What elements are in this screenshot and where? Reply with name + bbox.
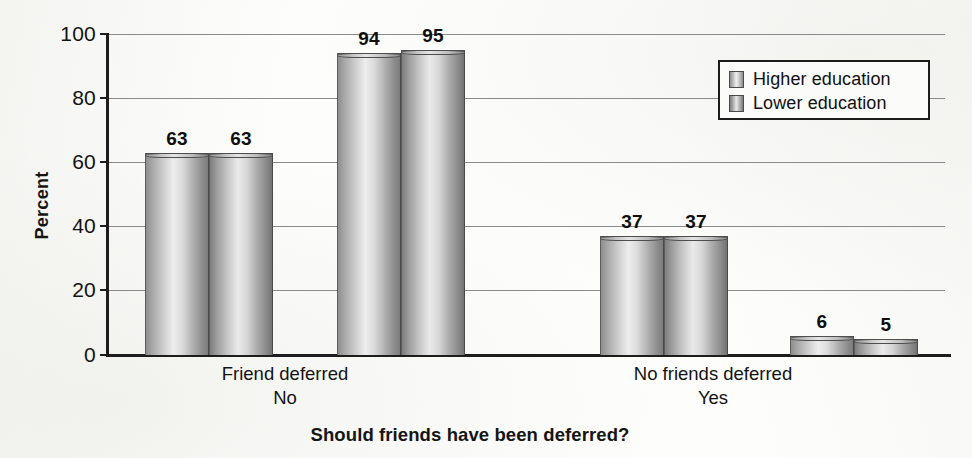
bar-value-group1-lower: 63: [209, 128, 273, 150]
bar-group3-lower-education[interactable]: [664, 236, 728, 355]
bar-top-cap: [854, 339, 918, 344]
bar-value-group4-lower: 5: [854, 314, 918, 336]
legend-label-lower-education: Lower education: [753, 93, 887, 114]
higher-education-swatch-icon: [729, 71, 744, 88]
bar-group2-lower-education[interactable]: [401, 50, 465, 355]
bar-group2-higher-education[interactable]: [337, 53, 401, 355]
lower-education-swatch-icon: [729, 95, 744, 112]
bar-group1-higher-education[interactable]: [145, 153, 209, 355]
legend-item-lower-education[interactable]: Lower education: [729, 91, 928, 115]
bar-top-cap: [790, 336, 854, 341]
y-tick-label-0: 0: [42, 343, 96, 367]
bar-top-cap: [664, 236, 728, 241]
bar-value-group3-higher: 37: [600, 211, 664, 233]
bar-top-cap: [600, 236, 664, 241]
y-tick-label-100: 100: [42, 22, 96, 46]
bar-value-group2-higher: 94: [337, 28, 401, 50]
group-label-no-friends-deferred-yes: No friends deferred Yes: [568, 362, 858, 409]
group-label-line2: No: [160, 386, 410, 410]
bar-top-cap: [145, 153, 209, 158]
group-label-line1: Friend deferred: [222, 363, 348, 384]
bar-value-group1-higher: 63: [145, 128, 209, 150]
bar-chart: 100 80 60 40 20 0 Percent: [0, 0, 972, 458]
y-tick-label-80: 80: [42, 86, 96, 110]
legend-label-higher-education: Higher education: [753, 69, 891, 90]
bar-group4-lower-education[interactable]: [854, 339, 918, 355]
bar-group4-higher-education[interactable]: [790, 336, 854, 355]
group-label-line1: No friends deferred: [634, 363, 792, 384]
legend: Higher education Lower education: [718, 60, 930, 120]
bar-value-group3-lower: 37: [664, 211, 728, 233]
bar-group1-lower-education[interactable]: [209, 153, 273, 355]
y-axis-title: Percent: [32, 146, 53, 266]
bar-top-cap: [401, 50, 465, 55]
group-label-line2: Yes: [568, 386, 858, 410]
bar-group3-higher-education[interactable]: [600, 236, 664, 355]
x-axis-title: Should friends have been deferred?: [0, 424, 940, 446]
y-tick-label-20: 20: [42, 278, 96, 302]
legend-item-higher-education[interactable]: Higher education: [729, 67, 928, 91]
group-label-friend-deferred-no: Friend deferred No: [160, 362, 410, 409]
bar-value-group4-higher: 6: [790, 311, 854, 333]
bar-value-group2-lower: 95: [401, 25, 465, 47]
bar-top-cap: [337, 53, 401, 58]
bar-top-cap: [209, 153, 273, 158]
